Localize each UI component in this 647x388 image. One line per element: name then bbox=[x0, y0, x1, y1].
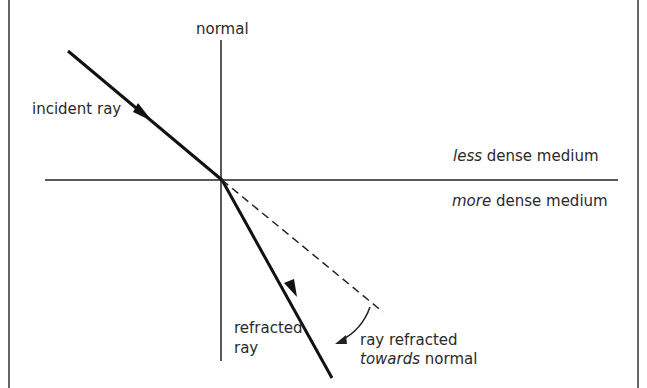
incident-arrow-icon bbox=[133, 103, 152, 121]
less-dense-label: less dense medium bbox=[453, 147, 599, 165]
more-rest: dense medium bbox=[491, 192, 607, 210]
towards-normal-label-1: ray refracted bbox=[360, 331, 458, 349]
towards-normal-label-2: towards normal bbox=[360, 350, 477, 368]
towards-em: towards bbox=[360, 350, 420, 368]
less-rest: dense medium bbox=[482, 147, 598, 165]
undeviated-path-dashed bbox=[222, 180, 383, 312]
more-em: more bbox=[452, 192, 491, 210]
more-dense-label: more dense medium bbox=[452, 192, 608, 210]
less-em: less bbox=[453, 147, 482, 165]
refracted-ray-label-1: refracted bbox=[234, 319, 303, 337]
arc-arrowhead-icon bbox=[335, 335, 347, 344]
incident-ray-label: incident ray bbox=[32, 100, 121, 118]
refracted-ray-label-2: ray bbox=[234, 339, 258, 357]
normal-label: normal bbox=[196, 20, 249, 38]
towards-rest: normal bbox=[420, 350, 477, 368]
